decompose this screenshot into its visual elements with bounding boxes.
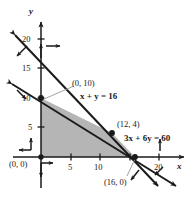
dot-origin <box>38 154 43 159</box>
point-label-16-0: (16, 0) <box>104 177 127 187</box>
y-tick-label-10: 10 <box>22 93 31 103</box>
direction-arrow-line1-right <box>131 170 139 180</box>
y-axis-label: y <box>29 6 33 16</box>
y-tick-label-20: 20 <box>22 34 31 44</box>
point-label-12-4: (12, 4) <box>117 119 140 129</box>
dot-0-10 <box>38 95 44 101</box>
x-tick-label-5: 5 <box>68 162 72 172</box>
y-tick-label-15: 15 <box>22 63 31 73</box>
point-label-origin: (0, 0) <box>9 159 27 169</box>
line-x-plus-y-16 <box>15 35 158 186</box>
point-label-0-10: (0, 10) <box>72 78 95 88</box>
leader-16-0 <box>127 159 135 176</box>
direction-arrow-line1-left <box>17 46 27 56</box>
dot-16-0 <box>132 154 138 160</box>
x-tick-label-20: 20 <box>154 162 163 172</box>
direction-arrows <box>17 44 163 180</box>
equation-label-3x-plus-6y: 3x + 6y = 60 <box>124 133 170 143</box>
equation-label-x-plus-y: x + y = 16 <box>80 91 117 101</box>
y-tick-label-5: 5 <box>28 122 32 132</box>
x-axis-label: x <box>177 161 182 171</box>
x-tick-label-10: 10 <box>94 162 103 172</box>
dot-12-4 <box>109 130 115 136</box>
figure-canvas: y x 20 15 10 5 5 10 20 (0, 10) (12, 4) (… <box>0 0 195 200</box>
